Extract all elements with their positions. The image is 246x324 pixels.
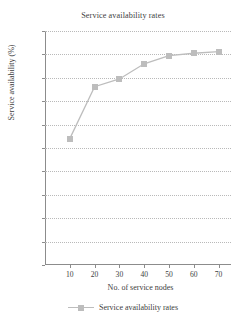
x-tick-mark	[219, 265, 220, 268]
x-tick-label: 40	[132, 270, 156, 279]
square-marker-icon	[68, 304, 94, 311]
legend-item-label: Service availability rates	[99, 303, 178, 312]
chart-title: Service availability rates	[0, 11, 246, 20]
chart-legend: Service availability rates	[0, 303, 246, 312]
data-point-marker	[116, 76, 122, 82]
x-tick-label: 60	[182, 270, 206, 279]
x-tick-mark	[95, 265, 96, 268]
data-point-marker	[141, 61, 147, 67]
x-tick-mark	[169, 265, 170, 268]
y-tick-mark	[42, 265, 45, 266]
x-tick-mark	[70, 265, 71, 268]
x-tick-label: 10	[58, 270, 82, 279]
y-axis-label: Service availability (%)	[7, 0, 16, 168]
x-tick-label: 70	[207, 270, 231, 279]
data-point-marker	[216, 49, 222, 55]
legend-marker	[78, 305, 84, 311]
x-tick-mark	[144, 265, 145, 268]
x-tick-label: 20	[83, 270, 107, 279]
series-line-service-availability-rates	[45, 31, 231, 265]
x-tick-label: 30	[107, 270, 131, 279]
x-tick-mark	[194, 265, 195, 268]
chart-figure: Service availability rates Service avail…	[0, 0, 246, 324]
x-axis-label: No. of service nodes	[45, 283, 236, 292]
data-point-marker	[92, 84, 98, 90]
x-tick-label: 50	[157, 270, 181, 279]
data-point-marker	[191, 50, 197, 56]
plot-area: 00.10.20.30.40.50.60.70.80.91 1020304050…	[45, 31, 231, 265]
x-tick-mark	[119, 265, 120, 268]
data-point-marker	[166, 53, 172, 59]
data-point-marker	[67, 136, 73, 142]
